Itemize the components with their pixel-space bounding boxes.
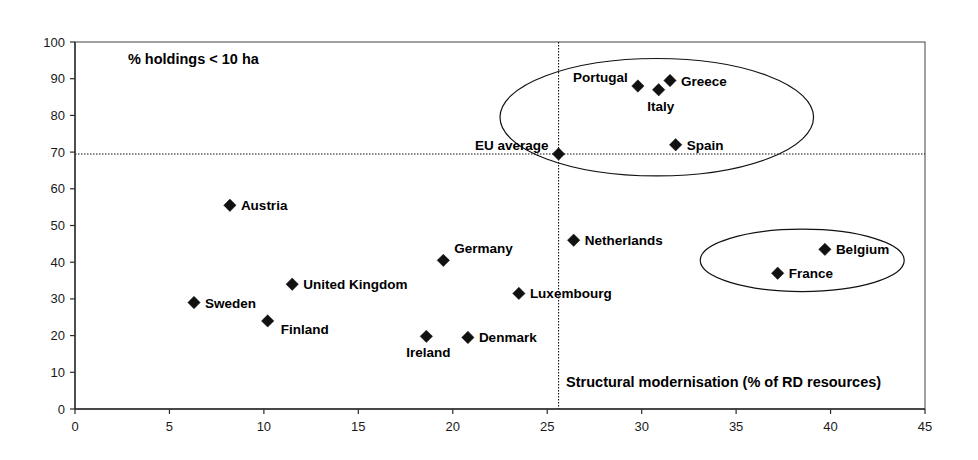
x-tick-label: 0 — [71, 419, 78, 434]
data-point-marker-luxembourg — [513, 287, 525, 299]
chart-canvas: 051015202530354045 010203040506070809010… — [0, 0, 978, 460]
data-point-label-sweden: Sweden — [205, 296, 256, 311]
y-tick-label: 40 — [51, 255, 65, 270]
data-point-label-belgium: Belgium — [836, 242, 889, 257]
x-tick-label: 10 — [257, 419, 271, 434]
data-point-marker-italy — [652, 84, 664, 96]
data-point-label-eu-average: EU average — [475, 138, 549, 153]
x-axis-group: 051015202530354045 — [71, 409, 932, 434]
data-point-marker-austria — [224, 199, 236, 211]
data-point-label-france: France — [789, 266, 834, 281]
data-points-group: SwedenAustriaFinlandUnited KingdomIrelan… — [188, 70, 889, 360]
y-tick-label: 0 — [58, 402, 65, 417]
data-point-marker-spain — [669, 139, 681, 151]
data-point-label-ireland: Ireland — [406, 345, 450, 360]
data-point-label-netherlands: Netherlands — [585, 233, 663, 248]
data-point-marker-france — [771, 267, 783, 279]
data-point-marker-portugal — [632, 80, 644, 92]
plot-frame — [75, 42, 925, 409]
data-point-marker-finland — [261, 315, 273, 327]
data-point-marker-netherlands — [567, 234, 579, 246]
y-tick-label: 100 — [43, 35, 65, 50]
data-point-marker-denmark — [462, 331, 474, 343]
x-tick-label: 5 — [166, 419, 173, 434]
data-point-label-austria: Austria — [241, 198, 288, 213]
x-tick-label: 30 — [634, 419, 648, 434]
scatter-chart-container: 051015202530354045 010203040506070809010… — [0, 0, 978, 460]
data-point-marker-belgium — [819, 243, 831, 255]
data-point-label-luxembourg: Luxembourg — [530, 286, 612, 301]
y-tick-label: 30 — [51, 291, 65, 306]
data-point-label-finland: Finland — [281, 322, 329, 337]
data-point-marker-greece — [664, 74, 676, 86]
data-point-marker-germany — [437, 254, 449, 266]
data-point-marker-eu-average — [552, 148, 564, 160]
y-axis-note-label: % holdings < 10 ha — [128, 51, 260, 67]
data-point-label-greece: Greece — [681, 74, 727, 89]
data-point-label-united-kingdom: United Kingdom — [303, 277, 407, 292]
plot-frame-group — [75, 42, 925, 409]
data-point-label-germany: Germany — [454, 241, 513, 256]
belgium-france-cluster — [700, 229, 904, 291]
y-tick-label: 70 — [51, 145, 65, 160]
x-axis-title-label: Structural modernisation (% of RD resour… — [566, 374, 881, 390]
data-point-label-portugal: Portugal — [573, 70, 628, 85]
y-tick-label: 90 — [51, 71, 65, 86]
y-tick-label: 60 — [51, 181, 65, 196]
x-tick-label: 35 — [729, 419, 743, 434]
data-point-label-denmark: Denmark — [479, 330, 537, 345]
x-tick-label: 20 — [446, 419, 460, 434]
y-axis-group: 0102030405060708090100 — [43, 35, 75, 417]
data-point-label-spain: Spain — [687, 138, 724, 153]
southern-europe-cluster — [500, 59, 814, 176]
y-tick-label: 80 — [51, 108, 65, 123]
x-tick-label: 45 — [918, 419, 932, 434]
y-tick-label: 20 — [51, 328, 65, 343]
data-point-marker-united-kingdom — [286, 278, 298, 290]
x-tick-label: 40 — [823, 419, 837, 434]
data-point-marker-sweden — [188, 296, 200, 308]
reference-lines-group — [75, 42, 925, 409]
x-tick-label: 25 — [540, 419, 554, 434]
data-point-marker-ireland — [420, 330, 432, 342]
data-point-label-italy: Italy — [647, 99, 675, 114]
y-tick-label: 10 — [51, 365, 65, 380]
x-tick-label: 15 — [351, 419, 365, 434]
y-tick-label: 50 — [51, 218, 65, 233]
